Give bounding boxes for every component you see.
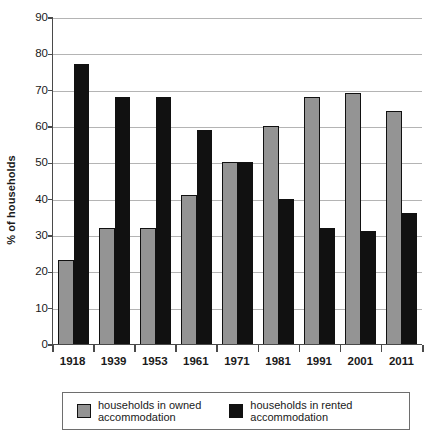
y-axis-title: % of households xyxy=(2,120,20,280)
bar-group xyxy=(176,18,217,344)
bar xyxy=(115,97,131,344)
bar xyxy=(320,228,336,344)
legend-swatch-rented xyxy=(229,404,243,418)
y-axis-tick-label: 10 xyxy=(20,303,48,315)
plot-area xyxy=(52,18,422,345)
x-axis-tick-label: 2001 xyxy=(340,352,381,370)
y-axis-tick-label: 60 xyxy=(20,121,48,133)
y-axis-tick-label: 30 xyxy=(20,230,48,242)
bar xyxy=(181,195,197,344)
y-axis-tick-label: 90 xyxy=(20,12,48,24)
x-axis-tick-label: 1971 xyxy=(216,352,257,370)
bar-group xyxy=(340,18,381,344)
bar xyxy=(74,64,90,344)
chart-legend: households in owned accommodationhouseho… xyxy=(62,392,410,430)
x-axis-tick-label: 1939 xyxy=(93,352,134,370)
x-axis-tick-mark xyxy=(93,345,95,352)
y-axis-tick-label: 0 xyxy=(20,339,48,351)
bar xyxy=(304,97,320,344)
bar xyxy=(238,162,254,344)
bar-group xyxy=(94,18,135,344)
bar-group xyxy=(381,18,422,344)
legend-swatch-owned xyxy=(77,404,91,418)
y-axis-tick-label: 50 xyxy=(20,158,48,170)
bar xyxy=(345,93,361,344)
y-axis-tick-label: 70 xyxy=(20,85,48,97)
bar-groups xyxy=(53,18,422,344)
x-axis-tick-mark xyxy=(52,345,54,352)
bar xyxy=(279,199,295,344)
bar-group xyxy=(217,18,258,344)
bar xyxy=(58,260,74,344)
bar-group xyxy=(135,18,176,344)
x-axis-tick-mark xyxy=(299,345,301,352)
x-axis-tick-label: 1981 xyxy=(258,352,299,370)
x-axis-tick-marks xyxy=(52,345,422,352)
bar xyxy=(386,111,402,344)
x-axis-tick-label: 1991 xyxy=(299,352,340,370)
x-axis-tick-label: 1953 xyxy=(134,352,175,370)
bar xyxy=(402,213,418,344)
legend-entry-owned: households in owned accommodation xyxy=(77,399,201,424)
x-axis-tick-label: 1918 xyxy=(52,352,93,370)
y-axis-tick-label: 80 xyxy=(20,49,48,61)
bar-group xyxy=(53,18,94,344)
y-axis-title-text: % of households xyxy=(5,155,17,245)
x-axis-tick-labels: 191819391953196119711981199120012011 xyxy=(52,352,422,370)
x-axis-tick-mark xyxy=(381,345,383,352)
bar xyxy=(197,130,213,344)
bar xyxy=(99,228,115,344)
x-axis-tick-label: 1961 xyxy=(175,352,216,370)
x-axis-tick-mark xyxy=(422,345,424,352)
x-axis-tick-mark xyxy=(340,345,342,352)
bar xyxy=(222,162,238,344)
y-axis-tick-label: 40 xyxy=(20,194,48,206)
legend-label: households in rented accommodation xyxy=(250,399,352,424)
bar-group xyxy=(258,18,299,344)
x-axis-tick-mark xyxy=(175,345,177,352)
bar xyxy=(361,231,377,344)
x-axis-tick-mark xyxy=(258,345,260,352)
bar-group xyxy=(299,18,340,344)
legend-label: households in owned accommodation xyxy=(98,399,201,424)
bar xyxy=(140,228,156,344)
bar xyxy=(156,97,172,344)
bar-chart-figure: % of households 9080706050403020100 1918… xyxy=(0,0,432,441)
x-axis-tick-label: 2011 xyxy=(381,352,422,370)
legend-entry-rented: households in rented accommodation xyxy=(229,399,352,424)
y-axis-tick-labels: 9080706050403020100 xyxy=(20,0,48,345)
x-axis-tick-mark xyxy=(216,345,218,352)
x-axis-tick-mark xyxy=(134,345,136,352)
y-axis-tick-label: 20 xyxy=(20,267,48,279)
bar xyxy=(263,126,279,344)
